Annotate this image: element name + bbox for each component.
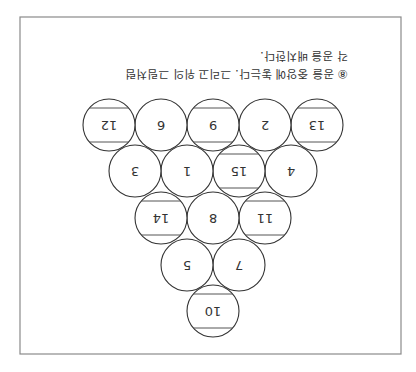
ball-number: 7 (235, 258, 243, 273)
ball-11: 11 (239, 192, 291, 244)
caption-line-2: 각 공을 배치한다. (260, 49, 348, 63)
ball-2: 2 (239, 99, 291, 151)
ball-1: 1 (161, 145, 213, 197)
ball-number: 9 (209, 118, 217, 133)
ball-number: 1 (183, 164, 191, 179)
ball-12: 12 (83, 99, 135, 151)
ball-number: 13 (309, 118, 326, 133)
ball-number: 10 (205, 304, 222, 319)
ball-15: 15 (213, 145, 265, 197)
ball-number: 5 (183, 258, 191, 273)
ball-number: 6 (157, 118, 165, 133)
ball-number: 8 (209, 211, 217, 226)
ball-10: 10 (187, 285, 239, 337)
ball-number: 11 (257, 211, 274, 226)
ball-8: 8 (187, 192, 239, 244)
ball-number: 14 (153, 211, 170, 226)
ball-6: 6 (135, 99, 187, 151)
caption-line-1: ⑧ 공을 중앙에 놓는다. 그리고 위의 그림처럼 (125, 67, 348, 81)
ball-number: 2 (261, 118, 269, 133)
ball-number: 15 (231, 164, 248, 179)
billiard-rack-diagram: 107511814415131329612 ⑧ 공을 중앙에 놓는다. 그리고 … (0, 0, 416, 372)
ball-number: 4 (287, 164, 295, 179)
ball-9: 9 (187, 99, 239, 151)
ball-3: 3 (109, 145, 161, 197)
ball-number: 3 (131, 164, 139, 179)
ball-number: 12 (101, 118, 118, 133)
ball-5: 5 (161, 239, 213, 291)
ball-7: 7 (213, 239, 265, 291)
ball-14: 14 (135, 192, 187, 244)
ball-13: 13 (291, 99, 343, 151)
ball-4: 4 (265, 145, 317, 197)
